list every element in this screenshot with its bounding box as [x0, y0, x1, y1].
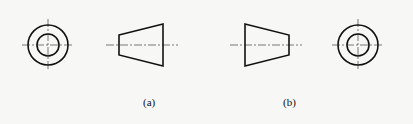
figure-panel-a	[22, 19, 178, 71]
frustum-side-view	[230, 24, 302, 66]
frustum-side-view	[106, 24, 178, 66]
circle-view	[332, 19, 384, 71]
drawing-canvas: (a) (b)	[0, 0, 413, 124]
figure-label-b: (b)	[283, 96, 296, 108]
technical-drawing	[0, 0, 413, 124]
figure-label-a: (a)	[143, 96, 155, 108]
circle-view	[22, 19, 74, 71]
figure-panel-b	[230, 19, 384, 71]
